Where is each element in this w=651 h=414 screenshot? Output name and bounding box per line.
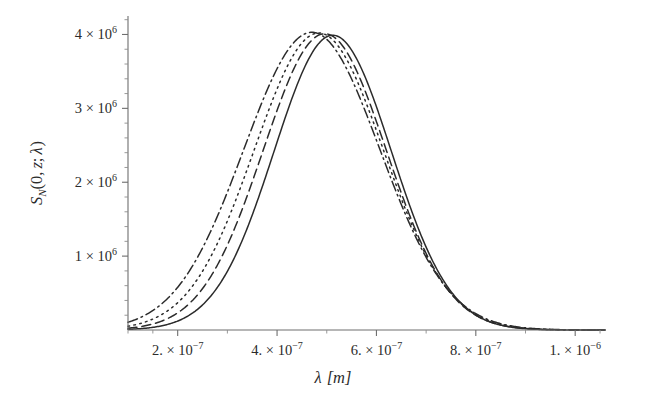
tick-label: 1. × 10−6 <box>549 340 600 358</box>
figure-container: 2. × 10−74. × 10−76. × 10−78. × 10−71. ×… <box>0 0 651 414</box>
x-axis-title-text: λ[m] <box>314 368 352 387</box>
tick-label: 3 × 106 <box>75 98 117 116</box>
x-axis-ticks <box>128 330 600 336</box>
x-axis: 2. × 10−74. × 10−76. × 10−78. × 10−71. ×… <box>128 330 605 358</box>
y-axis-title-text: SN(0,z;λ) <box>27 141 48 205</box>
tick-label: 2. × 10−7 <box>152 340 203 358</box>
spectral-density-chart: 2. × 10−74. × 10−76. × 10−78. × 10−71. ×… <box>0 0 651 414</box>
curve-group <box>128 32 605 330</box>
tick-label: 8. × 10−7 <box>450 340 501 358</box>
y-axis-title: SN(0,z;λ) <box>27 141 48 205</box>
tick-label: 1 × 106 <box>75 246 117 264</box>
tick-label: 4. × 10−7 <box>251 340 302 358</box>
tick-label: 2 × 106 <box>75 172 117 190</box>
tick-label: 4 × 106 <box>75 24 117 42</box>
tick-label: 6. × 10−7 <box>351 340 402 358</box>
x-axis-title: λ[m] <box>314 368 352 387</box>
curve-dashdot <box>128 32 605 330</box>
curve-dashed <box>128 34 605 330</box>
x-axis-tick-labels: 2. × 10−74. × 10−76. × 10−78. × 10−71. ×… <box>152 340 601 358</box>
curve-solid <box>128 35 605 330</box>
y-axis-tick-labels: 1 × 1062 × 1063 × 1064 × 106 <box>75 24 117 264</box>
y-axis: 1 × 1062 × 1063 × 1064 × 106 <box>75 16 128 330</box>
curve-dotted <box>128 33 605 330</box>
y-axis-ticks <box>122 20 128 316</box>
